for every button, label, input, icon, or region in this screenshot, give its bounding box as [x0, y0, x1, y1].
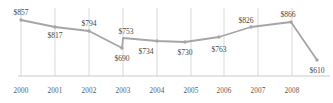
x-tick-label-2000: 2000 [13, 88, 28, 95]
x-tick-label-2007: 2007 [250, 88, 265, 95]
data-point-marker [249, 25, 252, 28]
data-point-label: $826 [238, 17, 253, 25]
x-tick-label-2008: 2008 [284, 88, 299, 95]
data-point-label: $753 [118, 28, 133, 36]
data-point-label: $817 [47, 32, 62, 40]
data-point-marker [87, 29, 90, 32]
x-tick-label-2001: 2001 [47, 88, 62, 95]
data-point-marker [120, 46, 123, 49]
data-point-label: $866 [280, 11, 295, 19]
x-tick-label-2004: 2004 [149, 88, 164, 95]
data-point-label: $730 [177, 49, 192, 57]
data-point-marker [19, 18, 22, 21]
x-tick-label-2002: 2002 [81, 88, 96, 95]
data-series-line [21, 20, 317, 60]
data-point-marker [183, 40, 186, 43]
line-chart: 200020012002200320042005200620072008 $85… [0, 0, 333, 103]
data-point-label: $610 [309, 67, 324, 75]
data-point-label: $734 [138, 48, 153, 56]
data-point-label: $763 [211, 46, 226, 54]
data-point-marker [315, 58, 318, 61]
data-point-marker [289, 20, 292, 23]
data-point-label: $690 [114, 55, 129, 63]
x-tick-label-2005: 2005 [183, 88, 198, 95]
x-tick-label-2006: 2006 [216, 88, 231, 95]
data-point-marker [155, 39, 158, 42]
data-point-marker [217, 35, 220, 38]
data-point-label: $794 [81, 20, 96, 28]
data-line-group [21, 20, 317, 60]
data-point-marker [53, 25, 56, 28]
x-tick-label-2003: 2003 [115, 88, 130, 95]
data-point-label: $857 [13, 9, 28, 17]
